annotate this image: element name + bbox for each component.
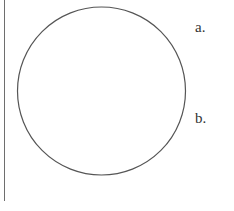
circle-shape <box>18 7 186 175</box>
label-a: a. <box>195 19 205 36</box>
label-b: b. <box>195 110 206 127</box>
